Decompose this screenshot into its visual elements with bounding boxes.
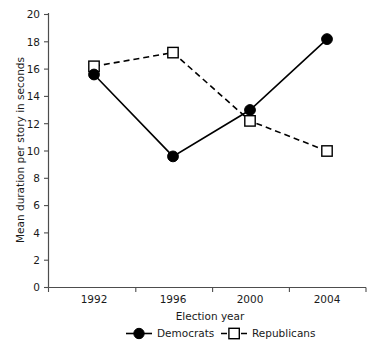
y-tick-label-10: 10 xyxy=(27,145,40,157)
y-axis: 0 2 4 6 8 10 12 14 16 18 20 Mean duratio… xyxy=(14,8,49,293)
y-tick-label-12: 12 xyxy=(27,118,40,130)
x-tick-labels: 1992 1996 2000 2004 xyxy=(81,293,341,305)
legend-item-republicans: Republicans xyxy=(221,327,315,339)
x-tick-label-1992: 1992 xyxy=(81,293,108,305)
x-tick-label-1996: 1996 xyxy=(160,293,187,305)
x-tick-label-2004: 2004 xyxy=(314,293,341,305)
democrats-line xyxy=(94,39,327,156)
y-tick-label-20: 20 xyxy=(27,8,40,20)
x-axis: 1992 1996 2000 2004 Election year xyxy=(49,288,367,323)
y-tick-label-14: 14 xyxy=(27,90,41,102)
democrats-point-1996 xyxy=(168,151,179,162)
y-tick-labels: 0 2 4 6 8 10 12 14 16 18 20 xyxy=(27,8,41,293)
republicans-point-2004 xyxy=(322,146,332,156)
y-tick-label-6: 6 xyxy=(33,199,40,211)
y-tick-label-2: 2 xyxy=(33,254,40,266)
republicans-point-1996 xyxy=(168,47,178,57)
legend-item-democrats: Democrats xyxy=(126,327,214,339)
republicans-point-2000 xyxy=(245,116,255,126)
chart-canvas: 0 2 4 6 8 10 12 14 16 18 20 Mean duratio… xyxy=(0,0,381,347)
legend-democrats-label: Democrats xyxy=(157,327,214,339)
x-tick-label-2000: 2000 xyxy=(237,293,264,305)
series-republicans xyxy=(89,47,332,156)
y-tick-label-0: 0 xyxy=(33,281,40,293)
x-axis-title: Election year xyxy=(176,310,245,322)
line-chart: 0 2 4 6 8 10 12 14 16 18 20 Mean duratio… xyxy=(0,0,381,347)
y-tick-label-16: 16 xyxy=(27,63,41,75)
democrats-point-2000 xyxy=(245,105,256,116)
y-tick-marks xyxy=(44,15,49,288)
legend-republicans-marker-icon xyxy=(229,328,239,338)
y-tick-label-4: 4 xyxy=(33,227,40,239)
republicans-line xyxy=(94,53,327,151)
x-tick-marks xyxy=(49,288,367,293)
legend-republicans-label: Republicans xyxy=(252,327,315,339)
y-axis-title: Mean duration per story in seconds xyxy=(14,57,26,243)
chart-legend: Democrats Republicans xyxy=(126,327,315,339)
democrats-point-2004 xyxy=(322,34,333,45)
y-tick-label-18: 18 xyxy=(27,36,40,48)
democrats-point-1992 xyxy=(89,69,100,80)
legend-democrats-marker-icon xyxy=(134,328,144,338)
y-tick-label-8: 8 xyxy=(33,172,40,184)
series-democrats xyxy=(89,34,333,162)
